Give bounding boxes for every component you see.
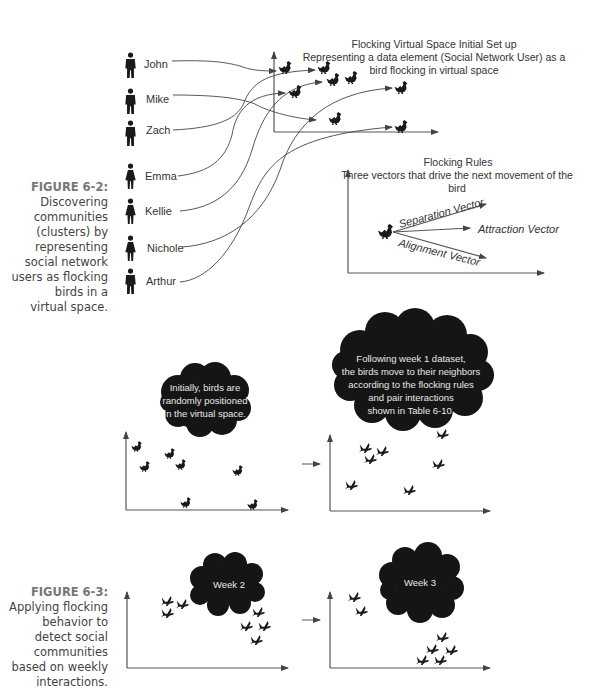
bird-icon (247, 499, 257, 509)
user-name: Kellie (145, 205, 172, 217)
female-person-icon (125, 163, 135, 189)
users-list: John Mike Zach Emma Kellie Nichole Arthu… (125, 52, 183, 294)
user-john: John (125, 52, 168, 78)
bird-icon (175, 459, 185, 469)
cloud-text: Week 3 (404, 577, 436, 588)
female-person-icon (125, 198, 135, 224)
cloud-text: randomly positioned (162, 395, 247, 406)
flying-bird-icon (426, 644, 439, 654)
cloud-text: Initially, birds are (170, 382, 241, 393)
bird-icon (180, 497, 190, 507)
cloud-text: and pair interactions (368, 392, 454, 403)
flying-bird-icon (176, 599, 189, 609)
flying-bird-icon (161, 608, 174, 618)
flying-bird-icon (364, 454, 377, 464)
flying-bird-icon (355, 606, 368, 616)
title-line: Representing a data element (Social Netw… (303, 51, 566, 63)
flying-bird-icon (250, 635, 263, 645)
flying-bird-icon (434, 655, 447, 665)
cloud-text: shown in Table 6-10. (368, 405, 455, 416)
user-emma: Emma (125, 163, 177, 189)
flying-bird-icon (416, 655, 429, 665)
bird-icon (318, 61, 331, 74)
curve-arthur (180, 127, 392, 282)
cloud-text: the birds move to their neighbors (342, 366, 481, 377)
bird-icon (131, 441, 141, 451)
flying-bird-icon (240, 621, 253, 631)
rules-title: Flocking Rules (424, 156, 493, 168)
flying-bird-icon (345, 480, 358, 490)
panel-week-1: Following week 1 dataset, the birds move… (330, 308, 494, 511)
cloud-text: Following week 1 dataset, (356, 353, 465, 364)
user-arthur: Arthur (125, 268, 176, 294)
user-name: Zach (146, 124, 170, 136)
user-name: Emma (145, 170, 178, 182)
male-person-icon (125, 120, 135, 146)
curve-nichole (182, 88, 392, 247)
flocking-rules-panel: Flocking Rules Three vectors that drive … (341, 156, 573, 273)
male-person-icon (125, 268, 135, 294)
rules-subtitle: Three vectors that drive the next moveme… (341, 169, 573, 181)
panel-initial: Initially, birds are randomly positioned… (126, 362, 288, 510)
flying-bird-icon (403, 485, 416, 495)
bird-icon (232, 465, 242, 475)
flying-bird-icon (161, 596, 174, 606)
flying-bird-icon (252, 607, 265, 617)
user-name: Arthur (146, 275, 176, 287)
male-person-icon (125, 52, 135, 78)
flying-bird-icon (376, 446, 389, 456)
title-line: bird flocking in virtual space (370, 64, 499, 76)
bird-icon (329, 112, 342, 125)
bird-icon (164, 448, 174, 458)
bird-icon (395, 120, 408, 133)
bird-icon (345, 71, 358, 84)
bird-icon (327, 73, 340, 86)
cloud-text: Week 2 (213, 579, 245, 590)
bird-icon (395, 81, 408, 94)
diagram-canvas: John Mike Zach Emma Kellie Nichole Arthu… (0, 0, 599, 698)
curve-emma (178, 93, 285, 176)
cloud-text: in the virtual space. (164, 408, 246, 419)
flying-bird-icon (348, 592, 361, 602)
user-name: Mike (146, 93, 169, 105)
bird-icon (378, 224, 393, 239)
male-person-icon (125, 88, 135, 114)
curve-john (172, 61, 276, 71)
user-kellie: Kellie (125, 198, 172, 224)
virtual-space-title: Flocking Virtual Space Initial Set up Re… (303, 38, 566, 76)
flying-bird-icon (359, 443, 372, 453)
flying-bird-icon (432, 459, 445, 469)
curve-zach (173, 70, 315, 130)
user-zach: Zach (125, 120, 170, 146)
user-mike: Mike (125, 88, 169, 114)
user-nichole: Nichole (125, 235, 183, 261)
panel-week-2: Week 2 (127, 552, 288, 668)
flying-bird-icon (258, 621, 271, 631)
bird-icon (139, 461, 149, 471)
flying-bird-icon (436, 429, 449, 439)
user-name: John (144, 58, 168, 70)
user-name: Nichole (147, 242, 184, 254)
attraction-vector-label: Attraction Vector (477, 223, 560, 235)
title-line: Flocking Virtual Space Initial Set up (352, 38, 517, 50)
alignment-vector-label: Alignment Vector (397, 236, 483, 268)
separation-vector-label: Separation Vector (397, 195, 486, 230)
cloud-text: according to the flocking rules (348, 379, 474, 390)
panel-week-3: Week 3 (330, 542, 490, 668)
flying-bird-icon (436, 632, 449, 642)
flying-bird-icon (445, 645, 458, 655)
rules-subtitle: bird (448, 182, 466, 194)
female-person-icon (125, 235, 135, 261)
